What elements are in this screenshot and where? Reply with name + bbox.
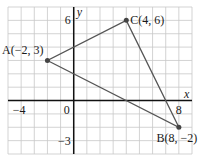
tick-label-x: −4 [13,103,26,117]
x-axis-label: x [183,87,190,101]
tick-label-y: −3 [58,134,71,148]
point-label-b: B(8, −2) [156,131,197,145]
tick-label-y: 6 [65,13,71,27]
point-a [45,58,50,63]
coordinate-plane: xy−4086−3A(−2, 3)B(8, −2)C(4, 6) [0,0,199,161]
point-label-a: A(−2, 3) [2,43,43,57]
tick-label-x: 8 [176,103,182,117]
point-b [176,125,181,130]
y-axis-label: y [76,5,83,19]
point-label-c: C(4, 6) [130,13,164,27]
tick-label-x: 0 [64,103,70,117]
point-c [124,18,129,23]
